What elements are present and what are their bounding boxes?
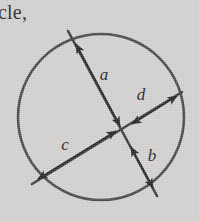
segment-label-b: b (148, 146, 157, 165)
measure-arrow-c (38, 131, 116, 179)
segment-label-c: c (61, 135, 69, 154)
segment-label-a: a (100, 65, 109, 84)
circle-chords-diagram: a b c d (0, 0, 199, 222)
segment-label-d: d (137, 85, 146, 104)
measure-arrow-a (76, 44, 120, 126)
figure-container: cle, a b c d (0, 0, 199, 222)
